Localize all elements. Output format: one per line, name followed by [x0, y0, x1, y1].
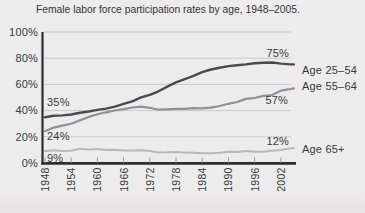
y-axis-tick-label: 40%	[15, 104, 38, 116]
x-axis-tick-label: 1990	[222, 168, 234, 192]
y-axis-tick-label: 60%	[15, 78, 38, 90]
start-value-label: 9%	[47, 152, 63, 164]
x-axis-tick-label: 1972	[144, 168, 156, 192]
y-axis-tick-label: 80%	[15, 52, 38, 64]
y-axis-tick-label: 100%	[9, 26, 38, 38]
y-axis-tick-label: 20%	[15, 131, 38, 143]
data-series	[45, 63, 294, 154]
x-axis-tick-label: 1960	[91, 168, 103, 192]
x-axis-tick-label: 1978	[170, 168, 182, 192]
series-line-2	[45, 88, 294, 131]
series-line-3	[45, 148, 294, 153]
start-value-label: 24%	[47, 130, 70, 142]
end-value-label: 57%	[265, 94, 288, 106]
x-axis-tick-label: 2002	[275, 168, 287, 192]
start-value-label: 35%	[47, 96, 70, 108]
x-axis-tick-label: 1984	[196, 168, 208, 192]
y-axis-tick-label: 0%	[22, 157, 38, 169]
end-value-label: 12%	[266, 135, 289, 147]
end-value-label: 75%	[266, 47, 289, 59]
chart: Female labor force participation rates b…	[0, 0, 365, 213]
x-axis-tick-label: 1966	[118, 168, 130, 192]
chart-title: Female labor force participation rates b…	[36, 4, 300, 15]
series-name-label: Age 65+	[302, 143, 345, 155]
x-axis-tick-label: 1948	[39, 168, 51, 192]
series-name-label: Age 25–54	[302, 64, 357, 76]
series-name-label: Age 55–64	[302, 80, 357, 92]
x-axis-tick-label: 1954	[65, 168, 77, 192]
x-axis-tick-label: 1996	[249, 168, 261, 192]
line-chart-svg: Female labor force participation rates b…	[0, 0, 365, 213]
